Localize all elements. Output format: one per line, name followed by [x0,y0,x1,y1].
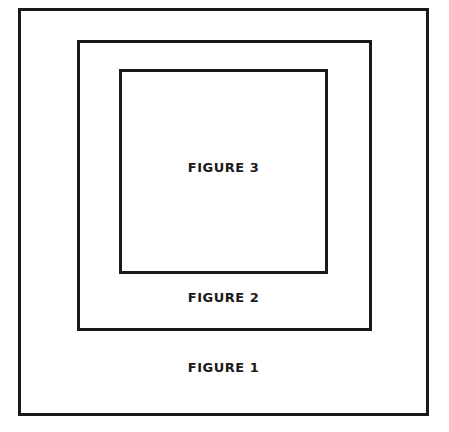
figure-3-label: FIGURE 3 [119,160,328,175]
figure-2-label: FIGURE 2 [119,290,328,305]
figure-1-label: FIGURE 1 [119,360,328,375]
